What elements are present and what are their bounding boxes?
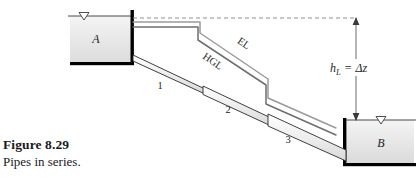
reservoir-b-label: B: [377, 136, 385, 150]
head-loss-label-group: hL=Δz: [325, 59, 387, 77]
energy-line-label-group: EL: [236, 35, 253, 51]
head-loss-label: hL=Δz: [330, 61, 368, 77]
pipe-segment-1-label: 1: [157, 80, 162, 91]
pipe-segment-2-label: 2: [225, 104, 230, 115]
pipe-segment-2-group: 2: [203, 86, 269, 125]
hydraulic-grade-line-label: HGL: [201, 51, 225, 72]
hgl-label-group: HGL: [201, 51, 225, 72]
pipe-segment-3-group: 3: [268, 114, 346, 161]
pipe-segment-3-label: 3: [285, 134, 290, 145]
pipe-segment-2-body: [203, 86, 269, 125]
head-loss-subscript: L: [335, 67, 341, 77]
energy-line-label: EL: [236, 35, 253, 51]
reservoir-b-bottom-wall: [343, 163, 416, 166]
pipe-segment-1-group: 1: [133, 55, 204, 94]
figure-container: A B 1 2 3: [0, 0, 416, 184]
reservoir-a-water-body: [70, 16, 133, 64]
figure-caption: Figure 8.29 Pipes in series.: [3, 137, 131, 169]
reservoir-a-bottom-wall: [70, 62, 134, 65]
pipe-segment-3-body: [268, 114, 346, 161]
figure-title: Pipes in series.: [3, 154, 131, 169]
reservoir-b-group: B: [343, 117, 416, 167]
head-loss-equals: =: [345, 61, 352, 75]
figure-number: Figure 8.29: [3, 137, 131, 153]
reservoir-a-group: A: [68, 10, 134, 65]
hydraulic-grade-line-hgl: [133, 27, 336, 135]
pipe-segment-1-body: [133, 55, 204, 94]
reservoir-a-label: A: [91, 32, 100, 46]
head-loss-value: Δz: [355, 61, 368, 75]
